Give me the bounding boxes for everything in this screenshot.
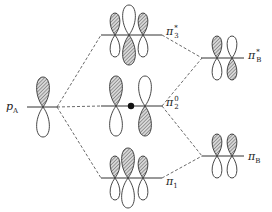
label-sub: 3 <box>174 32 178 40</box>
label-piB: πB <box>248 151 260 165</box>
label-main: p <box>6 100 13 113</box>
label-main: π <box>166 96 173 109</box>
label-sub: B <box>256 56 261 64</box>
label-sub: 2 <box>174 103 178 111</box>
label-sub: A <box>13 107 18 115</box>
label-sub: 1 <box>173 182 177 190</box>
label-pi2zero: π02 <box>166 95 179 111</box>
label-sup: * <box>174 24 178 32</box>
label-pA: pA <box>6 101 18 115</box>
node-dot <box>128 103 134 109</box>
label-pi3star: π*3 <box>166 24 179 40</box>
label-piBstar: π*B <box>248 48 261 64</box>
label-sup: * <box>256 48 261 56</box>
label-sub: B <box>255 157 260 165</box>
label-main: π <box>166 25 173 38</box>
mo-diagram <box>0 0 272 212</box>
label-pi1: π1 <box>166 176 178 190</box>
label-main: π <box>248 49 255 62</box>
label-sup: 0 <box>174 95 178 103</box>
